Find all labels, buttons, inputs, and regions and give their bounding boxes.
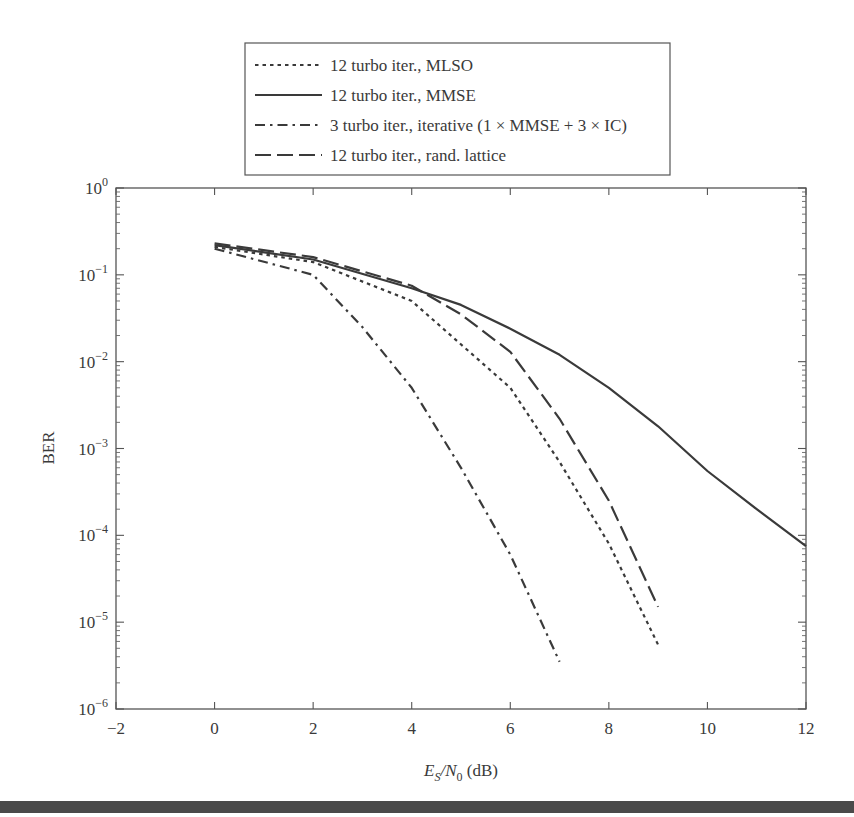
legend: 12 turbo iter., MLSO12 turbo iter., MMSE…: [245, 43, 670, 175]
x-tick-label: −2: [107, 719, 125, 738]
series-line-dotted: [215, 247, 658, 645]
y-tick-label: 10−1: [78, 262, 108, 285]
page-bottom-rule: [0, 801, 854, 813]
x-tick-label: 6: [506, 719, 515, 738]
y-tick-label: 10−5: [78, 609, 108, 632]
x-tick-label: 12: [798, 719, 815, 738]
x-tick-label: 10: [699, 719, 716, 738]
y-tick-label: 10−2: [78, 349, 108, 372]
legend-label: 3 turbo iter., iterative (1 × MMSE + 3 ×…: [330, 116, 627, 135]
x-axis-label: ES/N0 (dB): [423, 761, 498, 784]
plot-series: [215, 243, 806, 661]
legend-label: 12 turbo iter., MMSE: [330, 86, 476, 105]
x-label-unit: (dB): [463, 761, 498, 780]
y-tick-label: 100: [85, 175, 108, 198]
plot-frame: [116, 188, 806, 709]
x-tick-label: 4: [407, 719, 416, 738]
y-tick-label: 10−6: [78, 696, 108, 719]
y-axis-label: BER: [39, 431, 58, 465]
y-tick-label: 10−3: [78, 436, 108, 459]
series-line-dashed: [215, 243, 658, 607]
ber-chart: 12 turbo iter., MLSO12 turbo iter., MMSE…: [0, 0, 854, 800]
series-line-dashdot: [215, 249, 560, 662]
y-axis: 10010−110−210−310−410−510−6: [78, 175, 806, 719]
x-tick-label: 2: [309, 719, 318, 738]
series-line-solid: [215, 245, 806, 546]
x-axis: −2024681012: [107, 188, 815, 738]
legend-label: 12 turbo iter., MLSO: [330, 56, 473, 75]
x-tick-label: 0: [210, 719, 219, 738]
x-tick-label: 8: [605, 719, 614, 738]
x-label-E: E: [423, 761, 435, 780]
legend-label: 12 turbo iter., rand. lattice: [330, 146, 506, 165]
x-label-N: /N: [439, 761, 458, 780]
y-tick-label: 10−4: [78, 522, 108, 545]
